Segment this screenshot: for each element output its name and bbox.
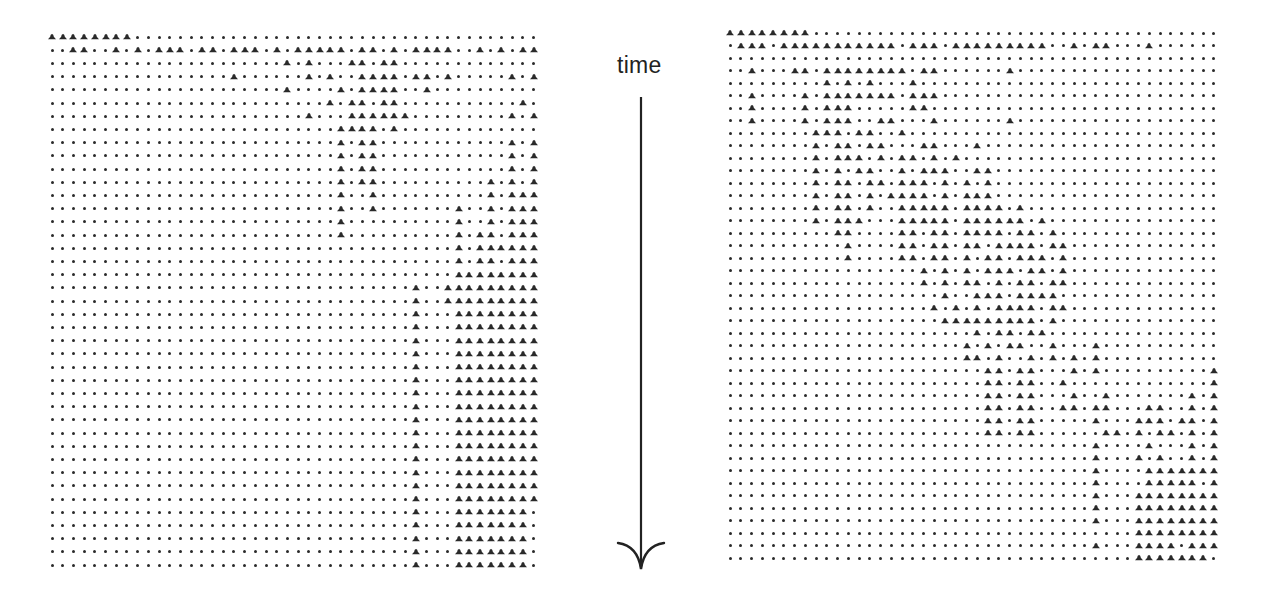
dot-marker-icon <box>93 405 96 408</box>
inactive-cell <box>844 442 852 450</box>
dot-marker-icon <box>1137 469 1140 472</box>
active-cell <box>455 205 463 213</box>
dot-marker-icon <box>1073 532 1076 535</box>
inactive-cell <box>1081 492 1089 500</box>
dot-marker-icon <box>275 524 278 527</box>
dot-marker-icon <box>879 307 882 310</box>
dot-marker-icon <box>404 379 407 382</box>
inactive-cell <box>198 323 206 331</box>
dot-marker-icon <box>307 300 310 303</box>
dot-marker-icon <box>361 326 364 329</box>
inactive-cell <box>1059 179 1067 187</box>
inactive-cell <box>209 165 217 173</box>
inactive-cell <box>80 508 88 516</box>
inactive-cell <box>1178 342 1186 350</box>
inactive-cell <box>1102 554 1110 562</box>
dot-marker-icon <box>104 550 107 553</box>
inactive-cell <box>1124 379 1132 387</box>
dot-marker-icon <box>339 273 342 276</box>
dot-marker-icon <box>361 418 364 421</box>
inactive-cell <box>112 389 120 397</box>
inactive-cell <box>1049 467 1057 475</box>
inactive-cell <box>444 521 452 529</box>
active-cell <box>801 117 809 125</box>
triangle-marker-icon <box>369 46 377 54</box>
inactive-cell <box>823 192 831 200</box>
inactive-cell <box>1124 442 1132 450</box>
inactive-cell <box>1070 167 1078 175</box>
dot-marker-icon <box>350 418 353 421</box>
active-cell <box>1167 504 1175 512</box>
triangle-marker-icon <box>984 417 992 425</box>
inactive-cell <box>1167 92 1175 100</box>
active-cell <box>508 112 516 120</box>
dot-marker-icon <box>804 557 807 560</box>
inactive-cell <box>423 482 431 490</box>
inactive-cell <box>1178 267 1186 275</box>
dot-marker-icon <box>1212 157 1215 160</box>
dot-marker-icon <box>147 115 150 118</box>
dot-marker-icon <box>793 457 796 460</box>
inactive-cell <box>423 178 431 186</box>
inactive-cell <box>241 376 249 384</box>
inactive-cell <box>1038 54 1046 62</box>
dot-marker-icon <box>147 418 150 421</box>
inactive-cell <box>898 429 906 437</box>
dot-marker-icon <box>382 524 385 527</box>
dot-marker-icon <box>815 57 818 60</box>
inactive-cell <box>69 191 77 199</box>
dot-marker-icon <box>339 405 342 408</box>
active-cell <box>1027 304 1035 312</box>
dot-marker-icon <box>1062 69 1065 72</box>
inactive-cell <box>241 205 249 213</box>
inactive-cell <box>390 271 398 279</box>
active-cell <box>963 254 971 262</box>
dot-marker-icon <box>1159 269 1162 272</box>
active-cell <box>973 279 981 287</box>
dot-marker-icon <box>232 432 235 435</box>
triangle-marker-icon <box>455 284 463 292</box>
triangle-marker-icon <box>530 244 538 252</box>
inactive-cell <box>487 165 495 173</box>
inactive-cell <box>758 342 766 350</box>
dot-marker-icon <box>772 82 775 85</box>
inactive-cell <box>155 73 163 81</box>
inactive-cell <box>898 354 906 362</box>
active-cell <box>305 73 313 81</box>
inactive-cell <box>198 469 206 477</box>
inactive-cell <box>358 337 366 345</box>
triangle-marker-icon <box>519 376 527 384</box>
active-cell <box>305 59 313 67</box>
dot-marker-icon <box>976 494 979 497</box>
inactive-cell <box>273 323 281 331</box>
inactive-cell <box>1188 167 1196 175</box>
dot-marker-icon <box>933 107 936 110</box>
dot-marker-icon <box>1159 69 1162 72</box>
dot-marker-icon <box>772 157 775 160</box>
dot-marker-icon <box>954 507 957 510</box>
inactive-cell <box>1124 304 1132 312</box>
inactive-cell <box>866 367 874 375</box>
active-cell <box>1092 517 1100 525</box>
inactive-cell <box>102 337 110 345</box>
inactive-cell <box>305 271 313 279</box>
dot-marker-icon <box>868 407 871 410</box>
inactive-cell <box>1188 154 1196 162</box>
inactive-cell <box>69 178 77 186</box>
dot-marker-icon <box>425 432 428 435</box>
active-cell <box>508 284 516 292</box>
inactive-cell <box>984 242 992 250</box>
dot-marker-icon <box>836 257 839 260</box>
active-cell <box>1016 229 1024 237</box>
inactive-cell <box>844 129 852 137</box>
inactive-cell <box>91 548 99 556</box>
triangle-marker-icon <box>1156 429 1164 437</box>
triangle-marker-icon <box>1016 217 1024 225</box>
active-cell <box>455 455 463 463</box>
dot-marker-icon <box>158 392 161 395</box>
inactive-cell <box>930 429 938 437</box>
active-cell <box>455 508 463 516</box>
active-cell <box>358 112 366 120</box>
inactive-cell <box>737 204 745 212</box>
inactive-cell <box>984 29 992 37</box>
